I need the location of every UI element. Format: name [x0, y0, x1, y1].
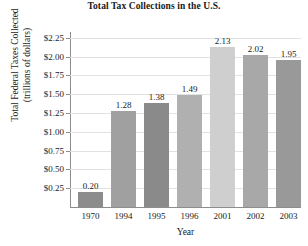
y-axis-tick-label: $1.75: [44, 70, 64, 80]
bar-group: 0.201970: [75, 33, 106, 207]
y-axis-tick-label: $0.50: [44, 164, 64, 174]
bar-group: 1.491996: [174, 33, 205, 207]
y-axis-tick-label: $0.75: [44, 146, 64, 156]
page-title: Total Tax Collections in the U.S.: [0, 1, 308, 11]
y-axis-tick-label: $1.00: [44, 127, 64, 137]
bar: [177, 95, 202, 207]
x-axis-tick-label: 1970: [73, 211, 108, 221]
x-axis-tick-label: 1994: [106, 211, 141, 221]
bar: [243, 55, 268, 207]
bar: [144, 103, 169, 207]
bar-group: 1.381995: [141, 33, 172, 207]
x-axis-tick-label: 2001: [205, 211, 240, 221]
y-axis-title-line1: Total Federal Taxes Collected: [9, 0, 21, 150]
y-axis-tick-label: $1.25: [44, 108, 64, 118]
y-axis-tick-label: $0.25: [44, 183, 64, 193]
bar-group: 2.022002: [240, 33, 271, 207]
plot-area: $0.25$0.50$0.75$1.00$1.25$1.50$1.75$2.00…: [70, 33, 301, 207]
bar-value-label: 2.13: [207, 36, 238, 46]
bar-value-label: 2.02: [240, 44, 271, 54]
x-axis-tick-label: 1995: [139, 211, 174, 221]
bar-value-label: 1.28: [108, 100, 139, 110]
chart-figure: Total Tax Collections in the U.S. Total …: [0, 0, 308, 246]
x-axis-title: Year: [70, 227, 301, 237]
bar: [210, 47, 235, 207]
y-axis-title: Total Federal Taxes Collected (trillions…: [9, 0, 35, 150]
bar-value-label: 1.95: [273, 49, 304, 59]
bar-value-label: 1.38: [141, 92, 172, 102]
bar-group: 1.281994: [108, 33, 139, 207]
x-axis-tick-label: 2002: [238, 211, 273, 221]
bar-group: 2.132001: [207, 33, 238, 207]
y-axis-tick-label: $2.00: [44, 52, 64, 62]
bar-group: 1.952003: [273, 33, 304, 207]
x-axis-tick-label: 1996: [172, 211, 207, 221]
x-axis-tick-label: 2003: [271, 211, 306, 221]
y-axis-title-line2: (trillions of dollars): [21, 0, 33, 150]
bar: [78, 192, 103, 207]
bar-series: 0.2019701.2819941.3819951.4919962.132001…: [70, 33, 301, 207]
bar: [276, 60, 301, 207]
y-axis-tick-label: $1.50: [44, 89, 64, 99]
bar-value-label: 1.49: [174, 84, 205, 94]
x-axis-line: [70, 207, 301, 208]
bar: [111, 111, 136, 207]
y-axis-tick-label: $2.25: [44, 33, 64, 43]
bar-value-label: 0.20: [75, 181, 106, 191]
